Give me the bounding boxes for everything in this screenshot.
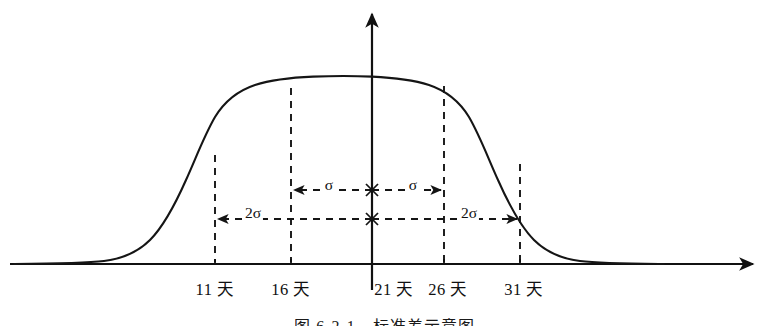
distribution-curve — [14, 76, 664, 264]
normal-distribution-plot — [0, 0, 769, 326]
reference-line-group — [215, 86, 520, 262]
two-sigma-annotation-row — [218, 213, 517, 225]
sigma-annotation-row — [294, 184, 441, 196]
standard-deviation-figure: 11 天 16 天 21 天 26 天 31 天 σ σ 2σ 2σ 图 6-2… — [0, 0, 769, 326]
